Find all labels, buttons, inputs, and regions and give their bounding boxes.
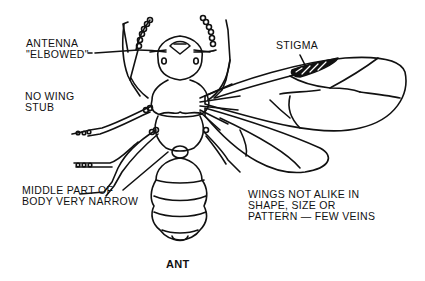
label-stigma: STIGMA — [276, 40, 318, 51]
petiole — [172, 146, 188, 158]
label-wings-not-alike: WINGS NOT ALIKE IN SHAPE, SIZE OR PATTER… — [248, 189, 375, 222]
label-antenna-elbowed: ANTENNA "ELBOWED" — [26, 38, 89, 60]
head — [150, 36, 210, 80]
diagram-title: ANT — [166, 259, 190, 270]
thorax — [151, 80, 209, 151]
label-middle-body-narrow: MIDDLE PART OF BODY VERY NARROW — [22, 185, 138, 207]
label-line: STUB — [25, 102, 74, 113]
antennae — [123, 16, 230, 99]
label-line: BODY VERY NARROW — [22, 196, 138, 207]
ant-identification-diagram: ANTENNA "ELBOWED" NO WING STUB STIGMA MI… — [0, 0, 425, 281]
label-line: STIGMA — [276, 40, 318, 51]
label-line: PATTERN — FEW VEINS — [248, 211, 375, 222]
abdomen — [151, 158, 207, 241]
label-no-wing-stub: NO WING STUB — [25, 91, 74, 113]
wings — [200, 57, 406, 172]
label-line: "ELBOWED" — [26, 49, 89, 60]
